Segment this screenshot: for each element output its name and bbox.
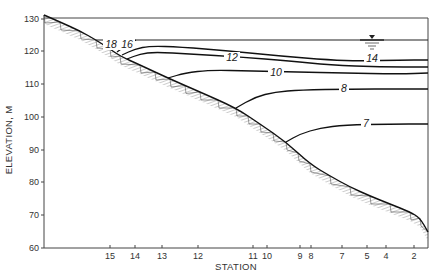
station-tick-label: 8 <box>308 251 313 261</box>
station-tick-label: 15 <box>105 251 115 261</box>
y-tick-label: 130 <box>24 14 39 24</box>
contour-8: 8 <box>236 82 428 108</box>
station-tick-label: 4 <box>383 251 388 261</box>
station-tick-label: 14 <box>130 251 140 261</box>
y-tick-label: 110 <box>25 79 39 89</box>
contour-label: 16 <box>121 38 133 50</box>
cross-section-chart: 13012011010090807060 151413121110987542 … <box>0 0 439 276</box>
station-tick-label: 13 <box>157 251 167 261</box>
y-tick-label: 120 <box>24 46 39 56</box>
water-level-icon <box>369 35 375 39</box>
contour-10: 10 <box>168 66 428 78</box>
contour-12: 12 <box>127 51 428 67</box>
station-tick-label: 2 <box>411 251 416 261</box>
contour-label: 14 <box>366 52 378 64</box>
y-tick-label: 60 <box>29 243 39 253</box>
contour-14: 14 <box>122 46 428 64</box>
contour-label: 18 <box>105 38 117 50</box>
station-tick-label: 7 <box>339 251 344 261</box>
y-tick-label: 70 <box>29 210 39 220</box>
contour-7: 7 <box>286 117 428 142</box>
station-tick-label: 11 <box>248 251 257 261</box>
x-axis: 151413121110987542 <box>105 245 417 261</box>
station-tick-label: 9 <box>297 251 302 261</box>
contour-18: 18 <box>103 38 119 50</box>
station-tick-label: 12 <box>193 251 203 261</box>
y-axis-title: ELEVATION, M <box>3 106 14 175</box>
contour-label: 10 <box>270 66 282 78</box>
y-tick-label: 100 <box>24 112 39 122</box>
y-tick-label: 90 <box>29 145 39 155</box>
contour-label: 8 <box>341 82 347 94</box>
contour-lines: 181614121087 <box>103 38 428 142</box>
y-axis: 13012011010090807060 <box>24 14 44 253</box>
station-tick-label: 5 <box>364 251 369 261</box>
contour-label: 12 <box>226 51 238 63</box>
y-tick-label: 80 <box>29 177 39 187</box>
station-tick-label: 10 <box>262 251 272 261</box>
x-axis-title: STATION <box>215 261 257 272</box>
